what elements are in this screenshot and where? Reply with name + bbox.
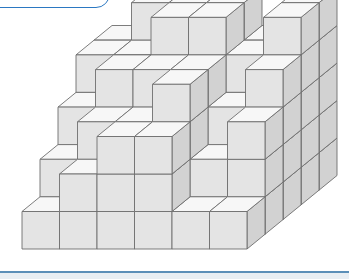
cube-front-face	[135, 137, 173, 175]
cube-front-face	[189, 17, 227, 55]
cube-front-face	[228, 159, 266, 197]
cube-front-face	[264, 17, 302, 55]
cube-front-face	[97, 137, 135, 175]
cube-front-face	[172, 212, 210, 250]
cube-front-face	[60, 174, 98, 212]
cube-front-face	[135, 174, 173, 212]
cube-front-face	[153, 84, 191, 122]
cube-front-face	[228, 122, 266, 160]
cube-front-face	[246, 70, 284, 108]
cube-front-face	[135, 212, 173, 250]
cube-front-face	[22, 212, 60, 250]
cube-front-face	[97, 174, 135, 212]
cube-front-face	[60, 212, 98, 250]
cube-front-face	[190, 159, 228, 197]
cube-front-face	[151, 17, 189, 55]
cube-front-face	[210, 212, 248, 250]
cube-stack-figure	[0, 0, 349, 279]
bottom-band	[0, 273, 349, 279]
cube-front-face	[97, 212, 135, 250]
cube-front-face	[96, 70, 134, 108]
